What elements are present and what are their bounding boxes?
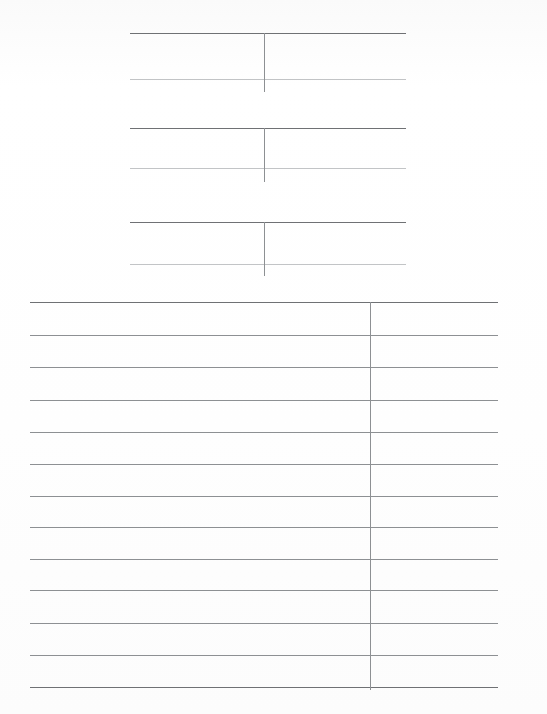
table-row — [30, 655, 498, 687]
table-row — [30, 335, 498, 367]
table-row — [30, 432, 498, 464]
small-table-3-body-cell-2 — [264, 264, 406, 276]
table-cell-right — [370, 527, 498, 559]
table-cell-left — [30, 464, 370, 496]
table-cell-left — [30, 335, 370, 367]
table-cell-left — [30, 496, 370, 527]
main-table-header-cell-2 — [370, 302, 498, 335]
main-table-bottom-rule — [30, 687, 498, 688]
small-table-3-body-cell-1 — [130, 264, 264, 276]
table-cell-left — [30, 623, 370, 655]
document-page — [0, 0, 547, 714]
table-row — [30, 559, 498, 590]
small-table-2-header-cell-1 — [130, 128, 264, 168]
table-cell-right — [370, 432, 498, 464]
table-cell-right — [370, 655, 498, 687]
small-table-1-header-cell-2 — [264, 33, 406, 79]
table-cell-right — [370, 623, 498, 655]
table-cell-left — [30, 367, 370, 400]
small-table-1-body-cell-2 — [264, 79, 406, 92]
table-row — [30, 590, 498, 623]
small-table-2-body-cell-2 — [264, 168, 406, 182]
table-cell-left — [30, 400, 370, 432]
table-cell-left — [30, 432, 370, 464]
table-cell-right — [370, 400, 498, 432]
table-cell-left — [30, 559, 370, 590]
table-cell-right — [370, 559, 498, 590]
table-cell-left — [30, 590, 370, 623]
main-table-header-row — [30, 302, 498, 335]
small-table-2-body-cell-1 — [130, 168, 264, 182]
table-cell-right — [370, 367, 498, 400]
small-table-3-header-cell-2 — [264, 222, 406, 264]
table-cell-right — [370, 496, 498, 527]
table-cell-right — [370, 464, 498, 496]
table-cell-left — [30, 655, 370, 687]
table-row — [30, 367, 498, 400]
small-table-1-header-cell-1 — [130, 33, 264, 79]
table-cell-right — [370, 335, 498, 367]
table-row — [30, 400, 498, 432]
main-table-header-cell-1 — [30, 302, 370, 335]
table-row — [30, 464, 498, 496]
small-table-3-header-cell-1 — [130, 222, 264, 264]
table-cell-right — [370, 590, 498, 623]
small-table-2-header-cell-2 — [264, 128, 406, 168]
small-table-1-body-cell-1 — [130, 79, 264, 92]
table-row — [30, 496, 498, 527]
table-cell-left — [30, 527, 370, 559]
table-row — [30, 527, 498, 559]
table-row — [30, 623, 498, 655]
